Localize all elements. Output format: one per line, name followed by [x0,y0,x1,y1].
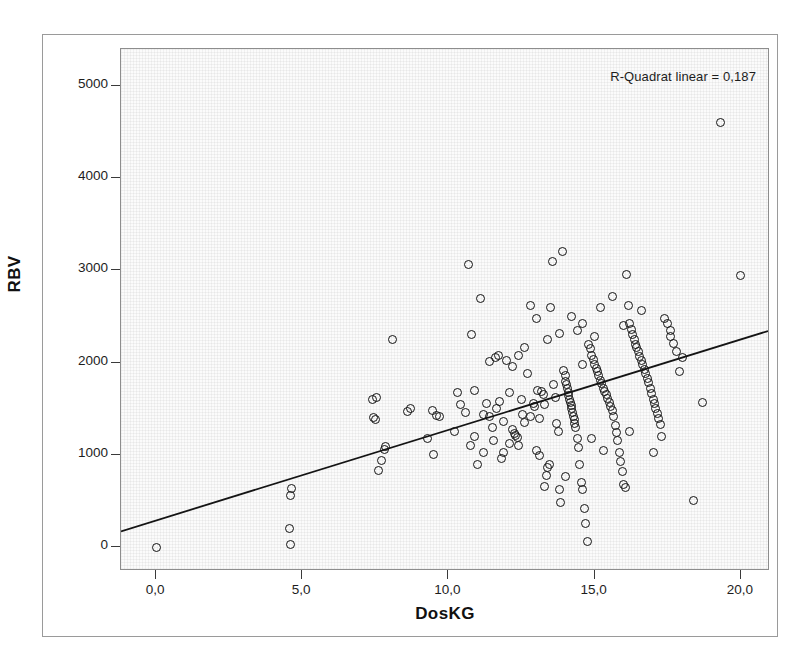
scatter-point [666,326,675,335]
scatter-point [514,441,523,450]
scatter-point [499,448,508,457]
scatter-point [590,332,599,341]
scatter-point [548,257,557,266]
scatter-point [543,335,552,344]
scatter-point [621,483,630,492]
y-axis: RBV 010002000300040005000 [0,0,120,604]
figure-canvas: RBV 010002000300040005000 R-Quadrat line… [0,0,810,662]
scatter-point [499,417,508,426]
scatter-point [523,369,532,378]
scatter-point [526,412,535,421]
scatter-point [374,466,383,475]
scatter-point [466,441,475,450]
scatter-point [689,496,698,505]
scatter-point [520,343,529,352]
x-axis-title: DosKG [120,604,770,624]
plot-panel: R-Quadrat linear = 0,187 [120,48,769,570]
scatter-point [381,442,390,451]
y-tick-label: 4000 [78,168,108,183]
scatter-point [571,423,580,432]
scatter-point [599,446,608,455]
x-tick-label: 20,0 [727,582,753,597]
scatter-point [698,398,707,407]
scatter-point [675,367,684,376]
scatter-point [526,301,535,310]
scatter-point [530,402,539,411]
scatter-point [388,335,397,344]
y-tick-mark [111,85,120,86]
scatter-point [555,329,564,338]
scatter-point [549,380,558,389]
y-tick-label: 5000 [78,76,108,91]
scatter-point [423,434,432,443]
scatter-point [580,504,589,513]
scatter-point [450,427,459,436]
scatter-point [573,434,582,443]
scatter-point [286,540,295,549]
scatter-point [494,351,503,360]
scatter-point [508,362,517,371]
scatter-point [485,357,494,366]
x-tick-mark [447,570,448,579]
scatter-point [470,432,479,441]
scatter-point [625,427,634,436]
x-tick-mark [740,570,741,579]
x-tick-mark [155,570,156,579]
scatter-point [287,484,296,493]
scatter-point [479,448,488,457]
scatter-point [736,271,745,280]
scatter-points-layer [121,49,768,569]
scatter-point [554,427,563,436]
scatter-point [587,434,596,443]
scatter-point [464,260,473,269]
scatter-point [540,400,549,409]
y-tick-label: 3000 [78,260,108,275]
scatter-point [152,543,161,552]
scatter-point [535,451,544,460]
scatter-point [574,443,583,452]
scatter-point [489,436,498,445]
scatter-point [461,408,470,417]
scatter-point [517,395,526,404]
scatter-point [540,482,549,491]
scatter-point [535,414,544,423]
scatter-point [372,393,381,402]
scatter-point [545,460,554,469]
y-tick-mark [111,454,120,455]
scatter-point [479,410,488,419]
x-tick-mark [594,570,595,579]
y-tick-mark [111,177,120,178]
scatter-point [371,415,380,424]
y-tick-label: 0 [100,537,108,552]
scatter-point [532,314,541,323]
y-tick-mark [111,269,120,270]
scatter-point [495,397,504,406]
scatter-point [578,360,587,369]
scatter-point [575,460,584,469]
scatter-point [546,303,555,312]
scatter-point [435,412,444,421]
scatter-point [488,423,497,432]
scatter-point [539,390,548,399]
scatter-point [624,301,633,310]
x-tick-label: 0,0 [146,582,165,597]
scatter-point [482,399,491,408]
scatter-point [608,292,617,301]
x-tick-label: 5,0 [292,582,311,597]
y-tick-mark [111,546,120,547]
scatter-point [578,319,587,328]
scatter-point [567,312,576,321]
y-axis-title: RBV [5,255,25,292]
scatter-point [561,472,570,481]
scatter-point [476,294,485,303]
scatter-point [505,388,514,397]
scatter-point [505,439,514,448]
x-tick-label: 15,0 [580,582,606,597]
scatter-point [406,404,415,413]
scatter-point [656,420,665,429]
scatter-point [618,467,627,476]
r-squared-annotation: R-Quadrat linear = 0,187 [610,69,756,84]
x-tick-mark [301,570,302,579]
scatter-point [581,519,590,528]
scatter-point [596,303,605,312]
